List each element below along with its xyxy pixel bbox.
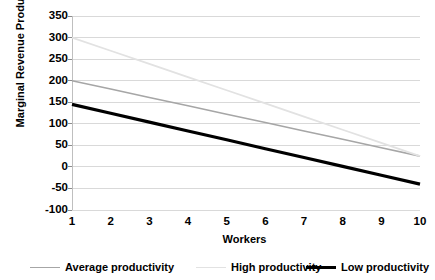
y-axis-tick-label: 350 xyxy=(24,10,68,22)
y-axis-tick-label: 300 xyxy=(24,32,68,44)
legend-item[interactable]: High productivity xyxy=(196,258,321,276)
x-axis-tick-label: 6 xyxy=(262,215,268,227)
x-axis-title: Workers xyxy=(72,233,417,245)
y-axis-tick-label: 150 xyxy=(24,96,68,108)
y-axis-tick-label: 0 xyxy=(24,161,68,173)
x-axis-tick-label: 10 xyxy=(414,215,427,227)
legend-item[interactable]: Average productivity xyxy=(30,258,174,276)
y-axis-tick-label: 250 xyxy=(24,53,68,65)
y-axis-tick-label: -100 xyxy=(24,204,68,216)
x-axis-tick-label: 9 xyxy=(378,215,384,227)
y-axis-tick-label: -50 xyxy=(24,183,68,195)
x-axis-tick-label: 2 xyxy=(107,215,113,227)
y-axis-tick-label: 50 xyxy=(24,140,68,152)
legend-line-swatch xyxy=(306,266,336,269)
legend-label: Low productivity xyxy=(341,261,429,273)
x-axis-tick-label: 4 xyxy=(185,215,191,227)
y-axis-tick-label: 100 xyxy=(24,118,68,130)
x-axis-tick-label: 3 xyxy=(146,215,152,227)
series-line xyxy=(72,38,420,157)
legend-item[interactable]: Low productivity xyxy=(306,258,429,276)
y-axis-tick-labels: 350300250200150100500-50-100 xyxy=(14,0,68,280)
legend-label: Average productivity xyxy=(65,261,174,273)
x-axis-tick-label: 1 xyxy=(69,215,75,227)
legend-line-swatch xyxy=(30,267,60,268)
y-axis-tick-label: 200 xyxy=(24,75,68,87)
chart-container: Marginal Revenue Product 350300250200150… xyxy=(0,0,435,280)
x-axis-tick-label: 7 xyxy=(301,215,307,227)
legend-line-swatch xyxy=(196,267,226,268)
x-axis-tick-label: 5 xyxy=(223,215,229,227)
x-axis-tick-label: 8 xyxy=(339,215,345,227)
chart-legend: Average productivityHigh productivityLow… xyxy=(0,258,435,278)
